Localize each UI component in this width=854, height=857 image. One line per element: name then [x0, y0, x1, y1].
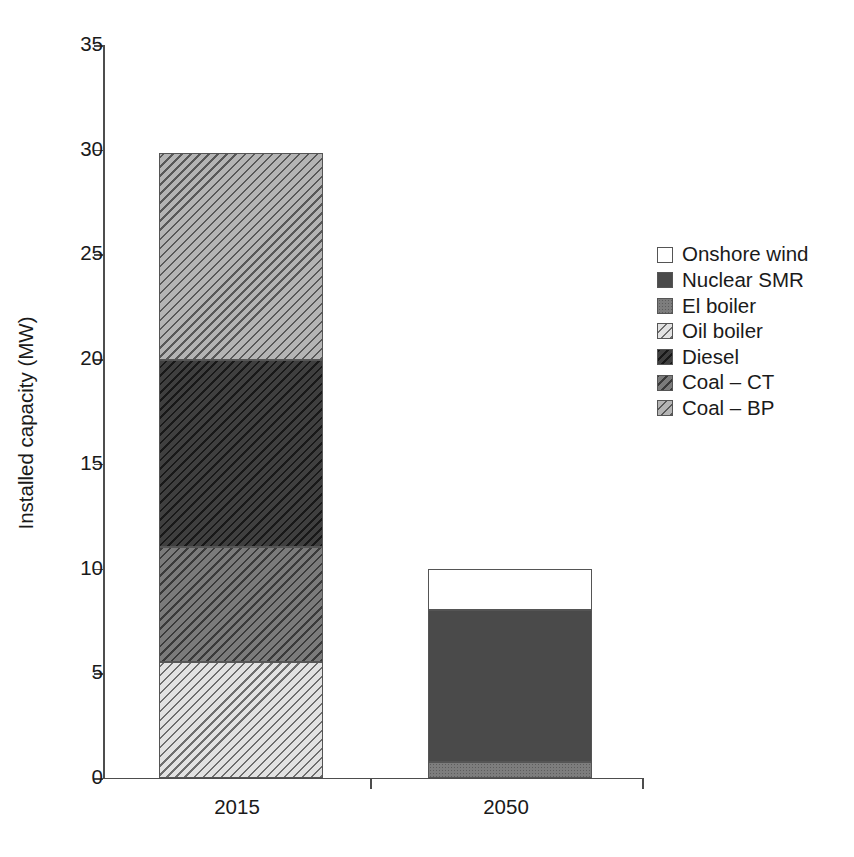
legend-item-el-boiler[interactable]: El boiler: [657, 294, 852, 317]
legend: Onshore wind Nuclear SMR El boiler Oil b…: [657, 243, 852, 422]
bar-segment-2015-diesel: [159, 360, 323, 546]
legend-item-coal-bp[interactable]: Coal – BP: [657, 396, 852, 419]
stacked-bar-chart: Installed capacity (MW) 35 30 25 20 15 1…: [0, 0, 854, 857]
bar-segment-2015-oil-boiler: [159, 662, 323, 778]
bar-segment-2050-onshore-wind: [428, 569, 592, 611]
y-tick-label-30: 30: [45, 139, 103, 160]
legend-swatch-coal-ct-icon: [657, 375, 673, 391]
y-tick-label-15: 15: [45, 453, 103, 474]
legend-label-el-boiler: El boiler: [682, 296, 756, 317]
legend-swatch-coal-bp-icon: [657, 400, 673, 416]
bar-segment-2015-coal-bp: [159, 153, 323, 360]
legend-item-coal-ct[interactable]: Coal – CT: [657, 371, 852, 394]
legend-swatch-onshore-wind-icon: [657, 247, 673, 263]
bar-segment-2050-el-boiler: [428, 762, 592, 778]
legend-label-nuclear-smr: Nuclear SMR: [682, 270, 804, 291]
legend-swatch-oil-boiler-icon: [657, 323, 673, 339]
legend-label-coal-bp: Coal – BP: [682, 398, 774, 419]
x-tick-divider: [370, 778, 372, 789]
legend-swatch-el-boiler-icon: [657, 298, 673, 314]
y-tick-label-20: 20: [45, 348, 103, 369]
y-tick-label-25: 25: [45, 243, 103, 264]
legend-swatch-nuclear-smr-icon: [657, 272, 673, 288]
legend-label-coal-ct: Coal – CT: [682, 372, 774, 393]
bar-segment-2050-nuclear-smr: [428, 610, 592, 762]
bar-2050: [428, 569, 592, 778]
legend-item-onshore-wind[interactable]: Onshore wind: [657, 243, 852, 266]
legend-item-nuclear-smr[interactable]: Nuclear SMR: [657, 269, 852, 292]
bar-2015: [159, 153, 323, 778]
legend-label-diesel: Diesel: [682, 347, 739, 368]
legend-label-oil-boiler: Oil boiler: [682, 321, 763, 342]
legend-label-onshore-wind: Onshore wind: [682, 244, 808, 265]
x-tick-label-2050: 2050: [426, 795, 586, 819]
x-tick-end: [642, 778, 644, 789]
y-tick-label-10: 10: [45, 558, 103, 579]
legend-swatch-diesel-icon: [657, 349, 673, 365]
legend-item-diesel[interactable]: Diesel: [657, 345, 852, 368]
bar-segment-2015-coal-ct: [159, 547, 323, 662]
y-axis-title: Installed capacity (MW): [14, 258, 38, 588]
y-tick-label-35: 35: [45, 34, 103, 55]
legend-item-oil-boiler[interactable]: Oil boiler: [657, 320, 852, 343]
y-axis-line: [103, 45, 105, 778]
y-tick-label-0: 0: [45, 767, 103, 788]
x-tick-label-2015: 2015: [157, 795, 317, 819]
y-tick-label-5: 5: [45, 662, 103, 683]
